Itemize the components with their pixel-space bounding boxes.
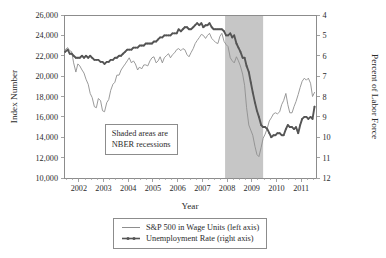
y-left-tick-label: 12,000 bbox=[35, 154, 58, 163]
y-right-tick-label: 8 bbox=[323, 93, 327, 102]
legend-swatch-sp500-icon bbox=[121, 223, 141, 232]
y-left-tick-label: 10,000 bbox=[35, 174, 58, 183]
x-tick-label: 2009 bbox=[244, 184, 260, 193]
y-axis-left-title: Index Number bbox=[9, 70, 19, 123]
y-axis-right-title: Percent of Labor Force bbox=[370, 54, 380, 139]
y-left-tick-label: 20,000 bbox=[35, 72, 58, 81]
y-left-tick-label: 26,000 bbox=[35, 11, 58, 20]
y-right-tick-label: 12 bbox=[323, 174, 331, 183]
y-left-tick-label: 22,000 bbox=[35, 52, 58, 61]
legend-item-sp500: S&P 500 in Wage Units (left axis) bbox=[121, 222, 259, 233]
y-right-tick-label: 6 bbox=[323, 52, 327, 61]
y-right-tick-label: 9 bbox=[323, 113, 327, 122]
y-right-tick-label: 4 bbox=[323, 11, 327, 20]
nber-recessions-note: Shaded areas are NBER recessions bbox=[105, 124, 178, 155]
y-right-tick-label: 5 bbox=[323, 31, 327, 40]
y-axis-left-tick-labels: 10,00012,00014,00016,00018,00020,00022,0… bbox=[35, 11, 58, 183]
legend-label-unemployment: Unemployment Rate (right axis) bbox=[146, 233, 254, 244]
y-right-tick-label: 7 bbox=[323, 72, 327, 81]
x-tick-label: 2006 bbox=[169, 184, 185, 193]
x-axis-title: Year bbox=[182, 201, 199, 211]
y-left-tick-label: 18,000 bbox=[35, 93, 58, 102]
nber-note-line-2: NBER recessions bbox=[112, 139, 171, 150]
x-tick-label: 2007 bbox=[194, 184, 210, 193]
y-left-tick-label: 14,000 bbox=[35, 133, 58, 142]
legend-item-unemployment: Unemployment Rate (right axis) bbox=[121, 233, 259, 244]
y-left-tick-label: 16,000 bbox=[35, 113, 58, 122]
y-right-tick-label: 11 bbox=[323, 154, 331, 163]
legend-swatch-unemployment-icon bbox=[121, 234, 141, 243]
x-tick-label: 2002 bbox=[71, 184, 87, 193]
x-tick-label: 2003 bbox=[95, 184, 111, 193]
y-left-tick-label: 24,000 bbox=[35, 31, 58, 40]
x-tick-label: 2011 bbox=[293, 184, 309, 193]
recession-band bbox=[225, 15, 263, 178]
chart-figure: 2002200320042005200620072008200920102011… bbox=[0, 0, 386, 258]
y-right-tick-label: 10 bbox=[323, 133, 331, 142]
x-tick-label: 2008 bbox=[219, 184, 235, 193]
x-tick-label: 2004 bbox=[120, 184, 136, 193]
nber-note-line-1: Shaded areas are bbox=[112, 128, 171, 139]
legend-label-sp500: S&P 500 in Wage Units (left axis) bbox=[146, 222, 259, 233]
recession-shaded-regions bbox=[225, 15, 263, 178]
x-tick-label: 2005 bbox=[145, 184, 161, 193]
x-tick-label: 2010 bbox=[268, 184, 284, 193]
chart-legend: S&P 500 in Wage Units (left axis) Unempl… bbox=[113, 218, 267, 249]
